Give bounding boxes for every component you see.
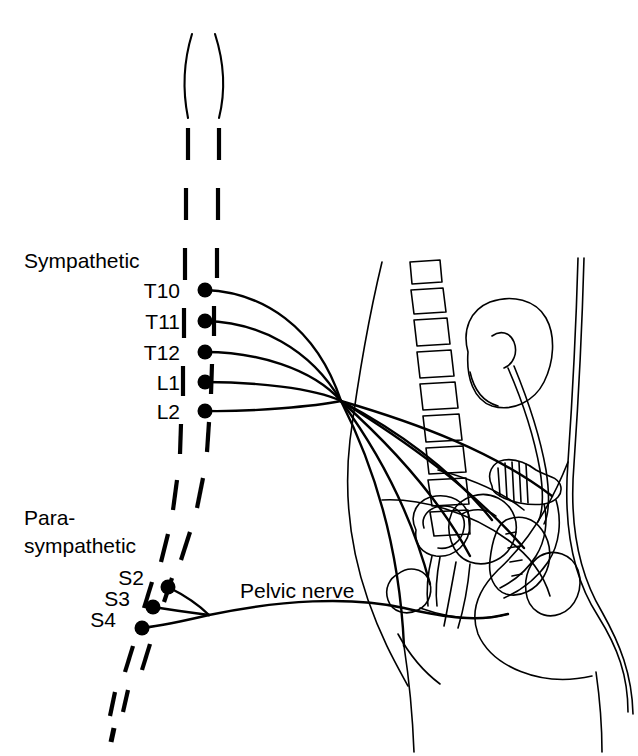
segment-label-T10: T10: [98, 278, 180, 303]
segment-dot-L2: [198, 404, 213, 419]
obturator-foramen: [526, 552, 580, 615]
figure-canvas: Sympathetic T10 T11 T12 L1 L2 Para- symp…: [0, 0, 638, 756]
segment-dot-T11: [198, 314, 213, 329]
anterior-thigh-line: [404, 646, 414, 752]
anatomy-diagram: [0, 0, 638, 756]
urethra-inner: [436, 557, 440, 606]
segment-dot-T12: [198, 345, 213, 360]
pelvic-nerve-label: Pelvic nerve: [240, 578, 354, 603]
back-outline-outer: [567, 258, 628, 712]
segment-dot-S4: [135, 621, 150, 636]
nerve-path-L1: [205, 382, 341, 401]
segment-label-T12: T12: [98, 340, 180, 365]
segment-dot-S2: [161, 580, 176, 595]
segment-label-T11: T11: [98, 309, 180, 334]
pelvic-organs-group: [382, 460, 580, 628]
body-outline-group: [348, 258, 633, 752]
filum-terminale-tip: [111, 728, 114, 742]
kidney-hilum: [492, 333, 516, 368]
parasympathetic-label-line2: sympathetic: [24, 533, 136, 558]
vertebra-4: [417, 350, 454, 378]
anterior-abdominal-wall: [348, 262, 408, 686]
segment-label-L1: L1: [98, 370, 180, 395]
spinal-cord-top-right: [215, 34, 223, 118]
buttock-outline: [475, 462, 592, 679]
nerve-path-S4: [142, 615, 209, 628]
posterior-thigh-line: [596, 672, 602, 752]
segment-label-S4: S4: [64, 607, 116, 632]
vertebra-5: [420, 382, 458, 410]
kidney-group: [466, 299, 553, 408]
segment-label-L2: L2: [98, 399, 180, 424]
vertebra-3: [414, 318, 450, 346]
vertebra-6: [423, 414, 462, 442]
vertebral-column-group: [410, 260, 470, 536]
parasympathetic-label-line1: Para-: [24, 505, 75, 530]
rectum-inner: [504, 500, 559, 598]
segment-dot-S3: [146, 600, 161, 615]
vertebra-2: [411, 288, 446, 314]
sympathetic-label: Sympathetic: [24, 248, 140, 273]
vertebra-1: [410, 260, 442, 284]
segment-dot-T10: [198, 283, 213, 298]
segment-dot-L1: [198, 375, 213, 390]
kidney-outline: [466, 299, 553, 408]
back-outline-inner: [573, 258, 633, 714]
nerve-path-L2: [205, 401, 341, 411]
spinal-segment-dots: [135, 283, 213, 636]
ureter-inner: [514, 366, 548, 524]
spinal-cord-top-left: [185, 34, 192, 118]
